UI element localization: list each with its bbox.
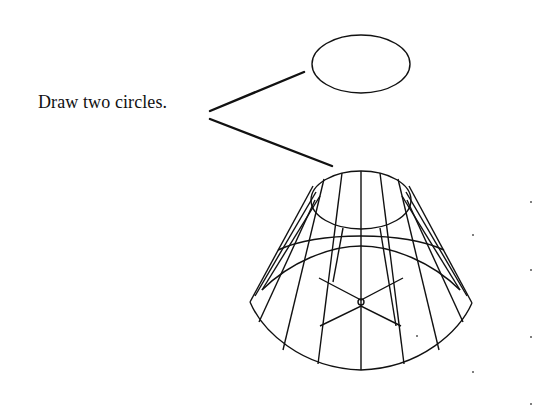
generator-r1 — [380, 173, 404, 364]
annotation-label: Draw two circles. — [38, 92, 167, 113]
leader-line-upper — [210, 72, 304, 111]
frustum-right-silhouette — [409, 186, 472, 303]
grid-dot — [530, 201, 532, 203]
frustum-right-silhouette-3 — [402, 196, 460, 290]
frustum — [250, 171, 472, 370]
frustum-left-silhouette-3 — [262, 196, 320, 290]
leader-line-lower — [210, 119, 332, 166]
diagram-canvas — [0, 0, 544, 408]
generator-r3 — [407, 200, 463, 322]
top-circle — [312, 35, 410, 93]
grid-dot — [416, 335, 418, 337]
frustum-left-silhouette — [250, 186, 313, 302]
generator-l1 — [318, 173, 342, 364]
frustum-right-silhouette-2 — [406, 192, 467, 296]
grid-dot — [530, 403, 532, 405]
frustum-left-silhouette-2 — [255, 192, 316, 296]
grid-dot — [472, 234, 474, 236]
generator-l3 — [259, 200, 315, 322]
grid-dot — [530, 336, 532, 338]
grid-dot — [472, 371, 474, 373]
grid-dot — [530, 269, 532, 271]
